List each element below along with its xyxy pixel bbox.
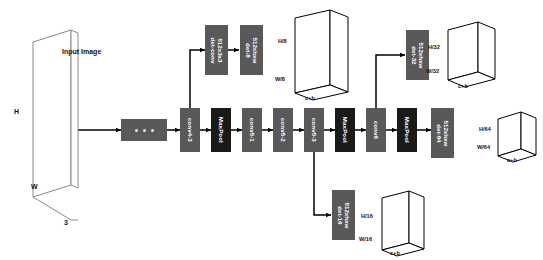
block-det-8: det-8 512xhxw xyxy=(240,25,263,75)
det-64-line2: 512xhxw xyxy=(443,120,450,146)
det-64-line1: det-64 xyxy=(435,124,442,142)
det-conv-line1: det-conv xyxy=(209,37,216,63)
input-depth-label: 3 xyxy=(64,219,68,226)
block-det-conv-labels: det-conv 512x3x3 xyxy=(209,37,224,63)
block-conv4-3-label: conv4-3 xyxy=(186,118,194,142)
block-conv5-1: conv5-1 xyxy=(242,108,262,152)
cube-32-width-label: W/32 xyxy=(426,68,439,74)
cube-16-height-label: H/16 xyxy=(361,213,373,219)
cube-8-depth-label: c+b xyxy=(305,95,315,101)
block-det-64: det-64 512xhxw xyxy=(431,108,454,158)
cube-32-depth-label: c+b xyxy=(458,83,468,89)
cube-32-height-label: H/32 xyxy=(428,44,440,50)
connector-lines xyxy=(0,0,543,260)
dot-1 xyxy=(135,129,138,132)
block-maxpool-1-label: MaxPool xyxy=(217,117,225,143)
ellipsis-block xyxy=(121,119,167,141)
det-32-line2: 512xhxw xyxy=(418,42,425,68)
cube-8-height-label: H/8 xyxy=(278,38,287,44)
block-maxpool-3-label: MaxPool xyxy=(403,117,411,143)
input-width-label: W xyxy=(31,183,38,190)
block-conv6-label: conv6 xyxy=(372,121,380,139)
block-maxpool-3: MaxPool xyxy=(397,108,417,152)
block-conv5-2-label: conv5-2 xyxy=(279,118,287,142)
det-16-line1: det-16 xyxy=(336,206,343,224)
cube-64-depth-label: c+b xyxy=(507,157,517,163)
cube-64-width-label: W/64 xyxy=(477,144,490,150)
block-conv4-3: conv4-3 xyxy=(180,108,200,152)
dot-2 xyxy=(143,129,146,132)
block-det-16-labels: det-16 512xhxw xyxy=(336,202,351,228)
block-conv5-3-label: conv5-3 xyxy=(310,118,318,142)
det-8-line1: det-8 xyxy=(244,43,251,58)
input-image-caption: Input Image xyxy=(62,48,101,55)
block-maxpool-1: MaxPool xyxy=(211,108,231,152)
det-16-line2: 512xhxw xyxy=(344,202,351,228)
cube-8-width-label: W/8 xyxy=(275,76,285,82)
det-32-line1: det-32 xyxy=(410,46,417,64)
block-conv5-1-label: conv5-1 xyxy=(248,118,256,142)
cube-16-depth-label: c+b xyxy=(390,250,400,256)
cube-64-height-label: H/64 xyxy=(479,126,491,132)
block-conv6: conv6 xyxy=(366,108,386,152)
det-conv-line2: 512x3x3 xyxy=(217,38,224,62)
block-det-32-labels: det-32 512xhxw xyxy=(410,42,425,68)
block-det-8-labels: det-8 512xhxw xyxy=(244,37,259,63)
block-conv5-3: conv5-3 xyxy=(304,108,324,152)
block-maxpool-2-label: MaxPool xyxy=(341,117,349,143)
block-conv5-2: conv5-2 xyxy=(273,108,293,152)
cube-16-width-label: W/16 xyxy=(359,236,372,242)
det-8-line2: 512xhxw xyxy=(252,37,259,63)
block-det-64-labels: det-64 512xhxw xyxy=(435,120,450,146)
architecture-diagram: Input Image H W 3 conv4-3 MaxPool conv5-… xyxy=(0,0,543,260)
input-height-label: H xyxy=(14,108,19,115)
block-maxpool-2: MaxPool xyxy=(335,108,355,152)
block-det-16: det-16 512xhxw xyxy=(332,190,355,240)
block-det-conv: det-conv 512x3x3 xyxy=(205,25,228,75)
dot-3 xyxy=(151,129,154,132)
